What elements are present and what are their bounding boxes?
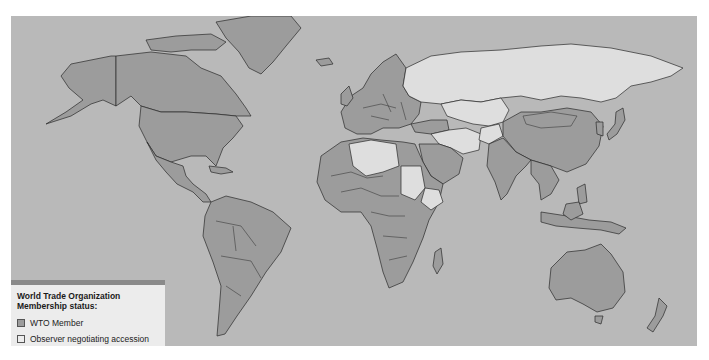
region-new-zealand [647,298,667,332]
region-russia [403,44,683,104]
region-tasmania [595,316,603,324]
region-south-america [203,196,291,336]
region-canada-islands [146,34,226,52]
observer-swatch-icon [17,335,25,343]
region-korea [596,122,603,136]
legend-title-line2: Membership status: [17,301,165,311]
region-caribbean [209,166,233,174]
region-indonesia [541,212,626,234]
region-canada [116,52,251,116]
legend-title-line1: World Trade Organization [17,291,165,301]
region-alaska [46,56,116,124]
region-philippines [577,184,587,204]
legend-title: World Trade Organization Membership stat… [11,285,165,311]
region-japan [607,108,625,140]
region-greenland [216,16,301,74]
legend-item-member: WTO Member [11,315,165,331]
region-central-asia [441,98,509,126]
region-iceland [316,58,333,66]
member-swatch-icon [17,319,25,327]
region-madagascar [433,248,443,274]
legend-item-label: WTO Member [30,318,83,328]
legend-item-label: Observer negotiating accession [30,334,149,344]
legend-item-observer: Observer negotiating accession [11,331,165,347]
region-australia [549,244,625,312]
map-legend: World Trade Organization Membership stat… [11,280,165,346]
